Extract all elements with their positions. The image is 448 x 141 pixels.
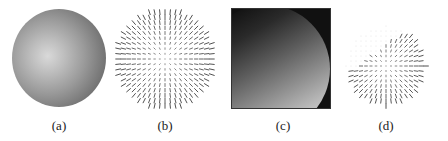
shaded-sphere-image [12, 9, 106, 107]
panel-c-depth-image [231, 8, 331, 109]
partial-needle-map-image [338, 6, 430, 112]
panel-b-label: (b) [145, 118, 185, 134]
panel-d-label: (d) [366, 118, 406, 134]
panel-c-label: (c) [263, 118, 303, 134]
depth-image [231, 8, 331, 109]
panel-b-needle-map [112, 6, 218, 112]
panel-d-partial-needle-map [338, 6, 430, 112]
panel-a-label: (a) [39, 118, 79, 134]
depth-disk [231, 8, 330, 109]
panel-a-shaded-sphere [12, 9, 108, 109]
needle-map-image [112, 6, 218, 112]
